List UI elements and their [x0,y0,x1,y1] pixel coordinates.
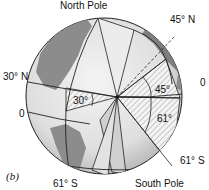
equator-label-right: 0 [200,77,206,88]
equator-label-left: 0 [19,108,25,119]
panel-label: (b) [6,170,19,183]
lat-61s-label-right: 61° S [180,155,205,166]
angle-30-label: 30° [73,95,88,106]
lat-30n-label: 30° N [3,71,28,82]
lat-61s-label-left: 61° S [53,178,78,189]
angle-45-label: 45° [155,84,170,95]
angle-61-label: 61° [157,113,172,124]
earth-center-point [116,96,119,99]
south-pole-label: South Pole [135,178,184,189]
globe-latitude-diagram: North Pole 45° N 30° N 0 0 30° 45° 61° 6… [0,0,209,190]
north-pole-label: North Pole [60,0,108,11]
lat-45n-label: 45° N [170,14,195,25]
